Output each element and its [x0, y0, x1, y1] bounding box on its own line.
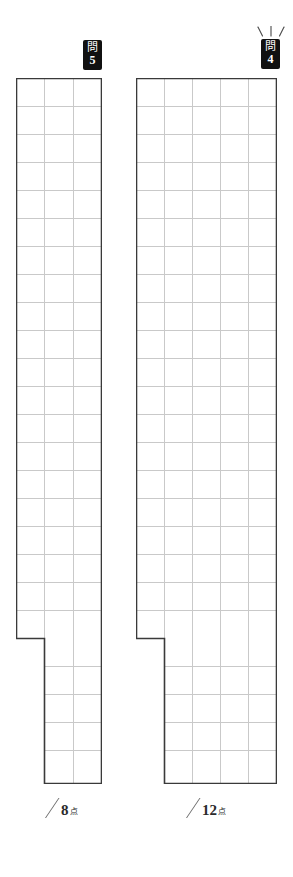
sparkle-emphasis-icon	[254, 26, 288, 39]
question-badge-4: 問 4	[261, 39, 280, 69]
badge-number-label: 4	[261, 53, 280, 66]
score-slash-icon	[186, 798, 201, 818]
score-slash-icon	[45, 798, 60, 818]
score-question-4: 12 点	[186, 798, 226, 818]
grid-svg	[16, 78, 102, 784]
grid-outline	[17, 79, 102, 784]
answer-sheet: 問 5	[0, 0, 293, 877]
writing-grid-question-4[interactable]	[136, 78, 277, 784]
grid-svg	[136, 78, 277, 784]
badge-number-label: 5	[83, 54, 102, 67]
grid-outline	[137, 79, 277, 784]
score-question-5: 8 点	[45, 798, 78, 818]
score-unit: 点	[70, 805, 78, 818]
score-unit: 点	[218, 805, 226, 818]
writing-grid-question-5[interactable]	[16, 78, 102, 784]
question-badge-5: 問 5	[83, 40, 102, 70]
